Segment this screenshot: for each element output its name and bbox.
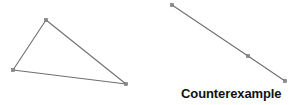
counterexample-label: Counterexample: [181, 87, 281, 100]
figure-canvas: Counterexample: [0, 0, 291, 105]
right-vertex: [124, 82, 127, 85]
edge-right-apex: [46, 20, 126, 84]
edge-left-right: [13, 70, 126, 84]
valid-triangle-edges: [13, 20, 126, 84]
left-vertex: [11, 68, 14, 71]
degenerate-triangle-edges: [172, 5, 285, 81]
segment-end-vertex: [283, 79, 286, 82]
valid-triangle: [11, 18, 127, 85]
segment-middle-vertex: [246, 54, 249, 57]
segment-upper-half: [172, 5, 248, 56]
apex-vertex: [44, 18, 47, 21]
valid-triangle-vertices: [11, 18, 127, 85]
edge-apex-left: [13, 20, 46, 70]
segment-start-vertex: [170, 3, 173, 6]
segment-lower-half: [248, 56, 285, 81]
degenerate-triangle: [170, 3, 286, 82]
